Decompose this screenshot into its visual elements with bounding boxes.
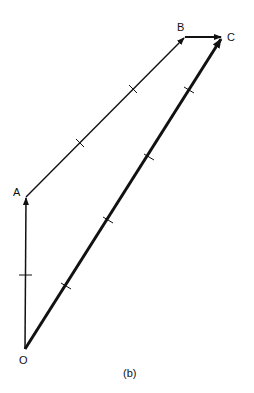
vector-OC-resultant xyxy=(25,39,221,349)
vector-AB xyxy=(26,38,184,197)
figure-caption: (b) xyxy=(123,368,136,379)
point-label-O: O xyxy=(19,355,28,366)
point-label-B: B xyxy=(177,22,184,33)
vector-diagram: B C A O (b) xyxy=(0,0,254,393)
point-label-C: C xyxy=(227,32,235,43)
vector-OA xyxy=(25,198,26,349)
vector-drawing xyxy=(0,0,254,393)
point-label-A: A xyxy=(13,187,20,198)
